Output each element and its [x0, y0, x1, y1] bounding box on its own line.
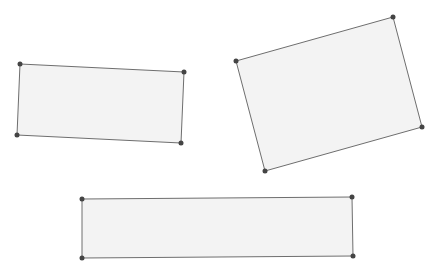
vertex-handle[interactable] [15, 133, 20, 138]
vertex-handle[interactable] [182, 70, 187, 75]
vertex-handle[interactable] [263, 169, 268, 174]
vertex-handle[interactable] [420, 125, 425, 130]
rectangle-3[interactable] [80, 195, 356, 261]
vertex-handle[interactable] [179, 141, 184, 146]
vertex-handle[interactable] [18, 62, 23, 67]
rectangle-2-outline[interactable] [236, 17, 422, 171]
drawing-canvas[interactable] [0, 0, 439, 271]
vertex-handle[interactable] [350, 195, 355, 200]
rectangle-1[interactable] [15, 62, 187, 146]
vertex-handle[interactable] [80, 197, 85, 202]
rectangle-1-outline[interactable] [17, 64, 184, 143]
rectangle-2[interactable] [234, 15, 425, 174]
vertex-handle[interactable] [351, 254, 356, 259]
vertex-handle[interactable] [80, 256, 85, 261]
rectangle-3-outline[interactable] [82, 197, 353, 258]
vertex-handle[interactable] [391, 15, 396, 20]
vertex-handle[interactable] [234, 59, 239, 64]
